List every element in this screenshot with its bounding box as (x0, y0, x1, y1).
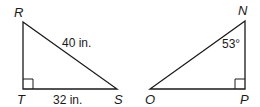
diagram: R T S 40 in. 32 in. N P O 53° (0, 0, 260, 107)
vertex-s: S (114, 92, 123, 107)
right-angle-marker-p (235, 79, 245, 89)
triangle-npo: N P O 53° (145, 3, 249, 107)
hypotenuse-label: 40 in. (62, 36, 91, 50)
triangle-npo-outline (150, 21, 245, 89)
vertex-t: T (17, 92, 26, 107)
triangle-rts: R T S 40 in. 32 in. (14, 5, 123, 107)
vertex-p: P (240, 92, 249, 107)
angle-label: 53° (222, 37, 240, 51)
vertex-o: O (145, 92, 155, 107)
right-angle-marker-t (23, 79, 33, 89)
base-label: 32 in. (53, 93, 82, 107)
triangle-rts-outline (23, 22, 117, 89)
triangles-figure: R T S 40 in. 32 in. N P O 53° (0, 0, 260, 107)
vertex-n: N (238, 3, 248, 18)
vertex-r: R (14, 5, 23, 20)
